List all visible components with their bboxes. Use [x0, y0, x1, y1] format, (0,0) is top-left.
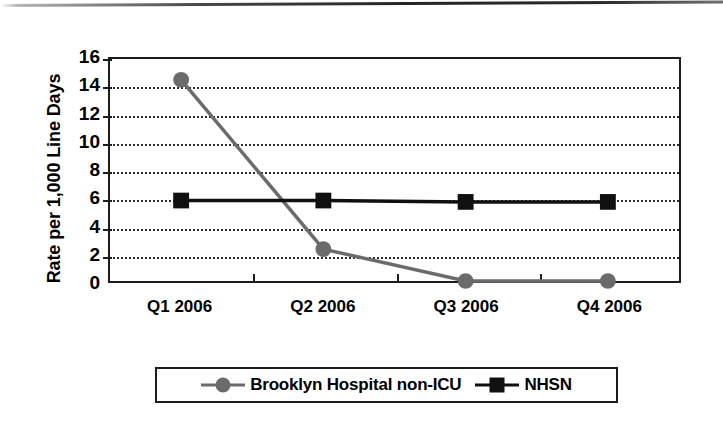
scan-artifact-rule [0, 0, 723, 7]
y-tick-label: 10 [54, 131, 100, 153]
data-point-circle [315, 241, 331, 257]
y-tick-label: 16 [54, 46, 100, 68]
legend-entry-nhsn: NHSN [475, 375, 571, 395]
legend-label-brooklyn: Brooklyn Hospital non-ICU [250, 375, 461, 395]
y-tick-label: 2 [54, 244, 100, 266]
square-marker-icon [475, 376, 519, 394]
y-tick-label: 0 [54, 272, 100, 294]
y-tick-label: 8 [54, 159, 100, 181]
series-line [181, 80, 608, 281]
data-point-square [458, 194, 474, 210]
x-tick-label: Q3 2006 [434, 297, 499, 317]
x-axis-tick-labels: Q1 2006Q2 2006Q3 2006Q4 2006 [108, 297, 681, 323]
plot-area [108, 57, 681, 283]
x-tick-label: Q2 2006 [290, 297, 355, 317]
circle-marker-icon [201, 376, 245, 394]
y-tick-label: 4 [54, 216, 100, 238]
data-point-circle [173, 72, 189, 88]
data-point-square [600, 194, 616, 210]
x-tick-label: Q1 2006 [147, 297, 212, 317]
y-tick-label: 12 [54, 103, 100, 125]
series-layer [110, 59, 679, 281]
chart-legend: Brooklyn Hospital non-ICU NHSN [155, 367, 618, 403]
chart-figure: Rate per 1,000 Line Days 0246810121416 Q… [0, 0, 723, 431]
series-line [181, 201, 608, 202]
data-point-circle [600, 273, 616, 289]
data-point-square [173, 193, 189, 209]
data-point-square [315, 193, 331, 209]
y-axis-tick-labels: 0246810121416 [54, 57, 100, 283]
x-tick-label: Q4 2006 [577, 297, 642, 317]
legend-label-nhsn: NHSN [524, 375, 571, 395]
data-point-circle [458, 273, 474, 289]
legend-entry-brooklyn: Brooklyn Hospital non-ICU [201, 375, 461, 395]
y-tick-label: 14 [54, 74, 100, 96]
y-tick-label: 6 [54, 187, 100, 209]
